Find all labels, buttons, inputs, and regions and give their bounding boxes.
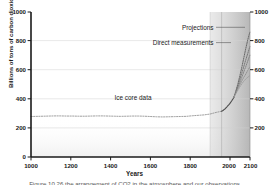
annotation-ice-core-data: Ice core data (115, 94, 152, 101)
y-tick-right-400: 400 (255, 95, 266, 102)
figure-container: Billions of tons of carbon dioxide Years… (0, 0, 269, 185)
x-tick-1000: 1000 (24, 162, 38, 169)
y-tick-left-200: 200 (16, 124, 27, 131)
x-tick-2100: 2100 (244, 162, 258, 169)
x-tick-1200: 1200 (64, 162, 78, 169)
y-tick-right-1000: 1000 (255, 8, 269, 15)
x-tick-1400: 1400 (104, 162, 118, 169)
annotation-direct-measurements: Direct measurements (153, 39, 214, 46)
y-tick-right-600: 600 (255, 66, 266, 73)
x-tick-1800: 1800 (183, 162, 197, 169)
x-tick-2000: 2000 (222, 162, 236, 169)
y-axis-right-ticks (250, 12, 253, 128)
y-tick-right-800: 800 (255, 37, 266, 44)
y-tick-left-400: 400 (16, 95, 27, 102)
annotation-projections: Projections (182, 24, 214, 32)
chart-svg: 1000 800 600 400 200 0 1000 800 600 400 … (0, 0, 269, 185)
y-tick-left-1000: 1000 (12, 8, 26, 15)
y-tick-left-0: 0 (23, 153, 27, 160)
y-tick-left-600: 600 (16, 66, 27, 73)
x-tick-1600: 1600 (144, 162, 158, 169)
y-tick-right-200: 200 (255, 124, 266, 131)
y-tick-left-800: 800 (16, 37, 27, 44)
projection-band (210, 12, 250, 157)
